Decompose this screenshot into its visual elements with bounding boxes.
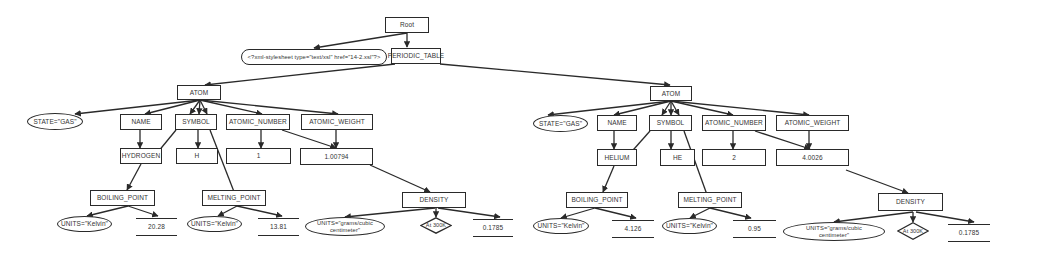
stylesheet-node: <?xml-stylesheet type="text/xsl" href="1… [241,49,387,65]
periodic-table-node: PERIODIC_TABLE [391,48,441,64]
atomic-weight-element-hydrogen: ATOMIC_WEIGHT [301,114,373,130]
state-attribute-hydrogen: STATE="GAS" [27,113,83,130]
melting-units-attribute-hydrogen: UNITS="Kelvin" [187,216,242,232]
name-element-hydrogen: NAME [120,114,162,130]
name-value-helium: HELIUM [597,149,637,166]
density-condition-helium: At 300K [897,222,929,240]
density-units-attribute-helium: UNITS="grams/cubic centimeter" [783,222,885,241]
state-attribute-helium: STATE="GAS" [533,115,588,132]
atomic-number-element-hydrogen: ATOMIC_NUMBER [226,114,290,130]
boiling-point-element-helium: BOILING_POINT [566,192,628,208]
density-units-attribute-hydrogen: UNITS="grams/cubic centimeter" [305,217,385,236]
symbol-element-hydrogen: SYMBOL [175,114,217,130]
boiling-units-attribute-helium: UNITS="Kelvin" [533,218,589,234]
melting-point-element-hydrogen: MELTING_POINT [202,190,266,206]
density-value-helium: 0.1785 [948,224,990,242]
melting-value-hydrogen: 13.81 [258,218,299,236]
melting-point-element-helium: MELTING_POINT [678,192,742,208]
boiling-point-element-hydrogen: BOILING_POINT [90,190,155,206]
density-element-hydrogen: DENSITY [402,192,466,208]
name-value-hydrogen: HYDROGEN [120,148,162,164]
melting-units-attribute-helium: UNITS="Kelvin" [662,218,717,234]
atomic-weight-value-helium: 4.0026 [776,149,849,166]
symbol-value-helium: HE [660,149,695,166]
density-condition-hydrogen: At 300K [420,217,452,234]
boiling-value-hydrogen: 20.28 [136,218,177,236]
density-condition-label: At 300K [903,228,923,234]
melting-value-helium: 0.95 [733,220,776,238]
name-element-helium: NAME [597,115,637,131]
root-node: Root [385,17,429,33]
atomic-number-value-hydrogen: 1 [226,148,291,164]
boiling-value-helium: 4.126 [612,220,654,238]
atomic-weight-element-helium: ATOMIC_WEIGHT [776,115,849,131]
atomic-number-value-helium: 2 [702,149,766,166]
atomic-number-element-helium: ATOMIC_NUMBER [702,115,766,131]
symbol-value-hydrogen: H [176,148,218,164]
atom-node-hydrogen: ATOM [177,85,221,100]
boiling-units-attribute-hydrogen: UNITS="Kelvin" [57,216,112,232]
density-value-hydrogen: 0.1785 [473,219,513,237]
density-element-helium: DENSITY [878,193,943,211]
atom-node-helium: ATOM [650,86,692,101]
symbol-element-helium: SYMBOL [649,115,692,131]
atomic-weight-value-hydrogen: 1.00794 [300,148,373,165]
density-condition-label: At 300K [426,222,446,228]
